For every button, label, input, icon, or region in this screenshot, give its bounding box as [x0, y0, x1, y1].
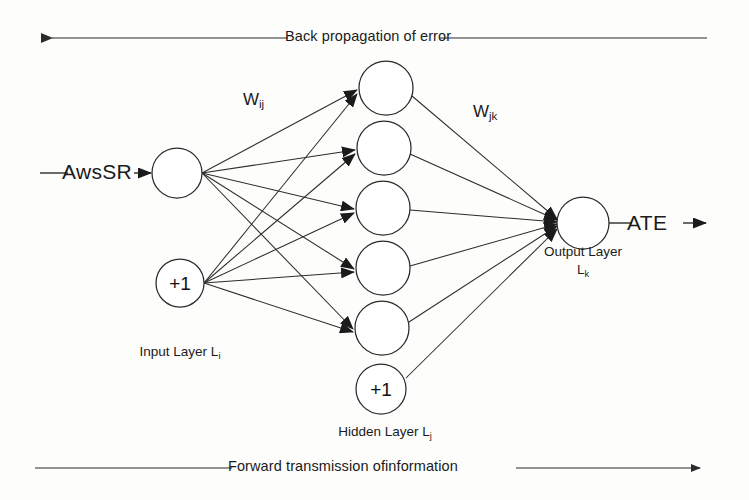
hidden-neuron-5[interactable] [355, 301, 409, 355]
hidden-bias-neuron-label: +1 [370, 379, 392, 401]
output-layer-caption-line1: Output Layer [527, 244, 639, 259]
edges-bias-to-hidden [204, 94, 357, 332]
input-bias-neuron-label: +1 [169, 273, 191, 295]
edge-input-h4 [202, 173, 354, 269]
hidden-layer-caption-base: Hidden Layer L [338, 424, 430, 439]
output-layer-caption-sub: k [584, 269, 589, 279]
hidden-layer-caption-sub: j [430, 431, 432, 441]
weight-ij-sub: ij [259, 98, 264, 110]
output-layer-caption-line2: Lk [527, 262, 639, 277]
edge-bias-h2 [204, 154, 355, 283]
edge-h2-output [410, 154, 557, 220]
edge-input-h5 [202, 173, 353, 329]
weight-jk-base: W [473, 102, 489, 121]
edge-bias-h4 [204, 272, 354, 283]
output-neuron[interactable] [557, 197, 609, 249]
input-layer-caption: Input Layer Li [118, 344, 242, 359]
input-signal-label: AwsSR [62, 160, 132, 184]
output-signal-label: ATE [627, 211, 667, 235]
hidden-layer-caption: Hidden Layer Lj [311, 424, 459, 439]
edges-hidden-to-output [406, 96, 557, 378]
edge-input-h2 [202, 150, 355, 173]
edge-bias-h3 [204, 213, 354, 283]
hidden-neuron-1[interactable] [359, 61, 413, 115]
hidden-neuron-4[interactable] [356, 241, 410, 295]
diagram-canvas: Back propagation of error Forward transm… [0, 0, 749, 500]
edge-h3-output [410, 210, 557, 222]
weight-ij-base: W [243, 90, 259, 109]
input-layer-caption-base: Input Layer L [140, 344, 219, 359]
hidden-neuron-3[interactable] [356, 181, 410, 235]
neuron-circles [152, 61, 609, 414]
edges-input-to-hidden [202, 90, 357, 329]
edge-input-h1 [202, 90, 357, 173]
weight-label-ij: Wij [243, 90, 264, 110]
back-propagation-label: Back propagation of error [285, 28, 451, 44]
edge-bias-h5 [204, 283, 353, 332]
weight-jk-sub: jk [489, 110, 497, 122]
input-neuron[interactable] [152, 148, 202, 198]
hidden-neuron-2[interactable] [357, 121, 411, 175]
forward-transmission-label: Forward transmission ofinformation [228, 458, 458, 474]
weight-label-jk: Wjk [473, 102, 497, 122]
